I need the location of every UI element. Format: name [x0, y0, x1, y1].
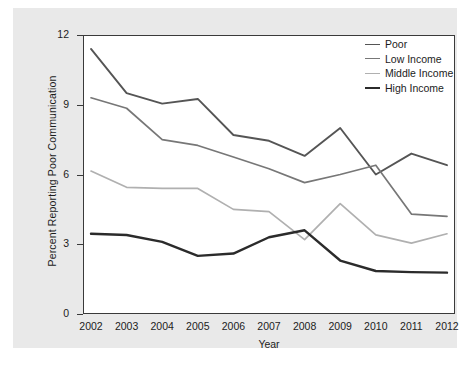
- legend-item-middle-income[interactable]: Middle Income: [365, 66, 457, 81]
- y-tick-mark: [77, 105, 83, 106]
- y-tick-mark: [77, 314, 83, 315]
- x-tick-label: 2004: [142, 320, 182, 332]
- x-tick-label: 2010: [356, 320, 396, 332]
- y-tick-label: 12: [41, 28, 69, 40]
- chart-legend: PoorLow IncomeMiddle IncomeHigh Income: [365, 37, 457, 95]
- x-axis-title: Year: [83, 338, 455, 350]
- legend-swatch-icon: [365, 87, 380, 89]
- y-tick-label: 9: [41, 98, 69, 110]
- x-tick-label: 2011: [391, 320, 431, 332]
- y-tick-label: 3: [41, 237, 69, 249]
- legend-label: Middle Income: [385, 67, 453, 79]
- legend-label: Low Income: [385, 53, 442, 65]
- y-tick-mark: [77, 175, 83, 176]
- chart-panel: Percent Reporting Poor Communication Yea…: [13, 8, 457, 348]
- x-tick-label: 2003: [107, 320, 147, 332]
- x-tick-label: 2005: [178, 320, 218, 332]
- x-tick-label: 2008: [285, 320, 325, 332]
- legend-swatch-icon: [365, 73, 380, 74]
- legend-item-low-income[interactable]: Low Income: [365, 52, 457, 67]
- x-tick-label: 2009: [320, 320, 360, 332]
- y-tick-mark: [77, 35, 83, 36]
- y-tick-mark: [77, 244, 83, 245]
- legend-swatch-icon: [365, 44, 380, 45]
- x-tick-label: 2007: [249, 320, 289, 332]
- figure-container: Percent Reporting Poor Communication Yea…: [0, 0, 470, 371]
- y-tick-label: 6: [41, 168, 69, 180]
- y-tick-label: 0: [41, 307, 69, 319]
- legend-label: High Income: [385, 82, 444, 94]
- legend-label: Poor: [385, 38, 407, 50]
- legend-item-poor[interactable]: Poor: [365, 37, 457, 52]
- legend-swatch-icon: [365, 58, 380, 59]
- x-tick-label: 2006: [213, 320, 253, 332]
- x-tick-label: 2002: [71, 320, 111, 332]
- legend-item-high-income[interactable]: High Income: [365, 81, 457, 96]
- x-tick-label: 2012: [427, 320, 467, 332]
